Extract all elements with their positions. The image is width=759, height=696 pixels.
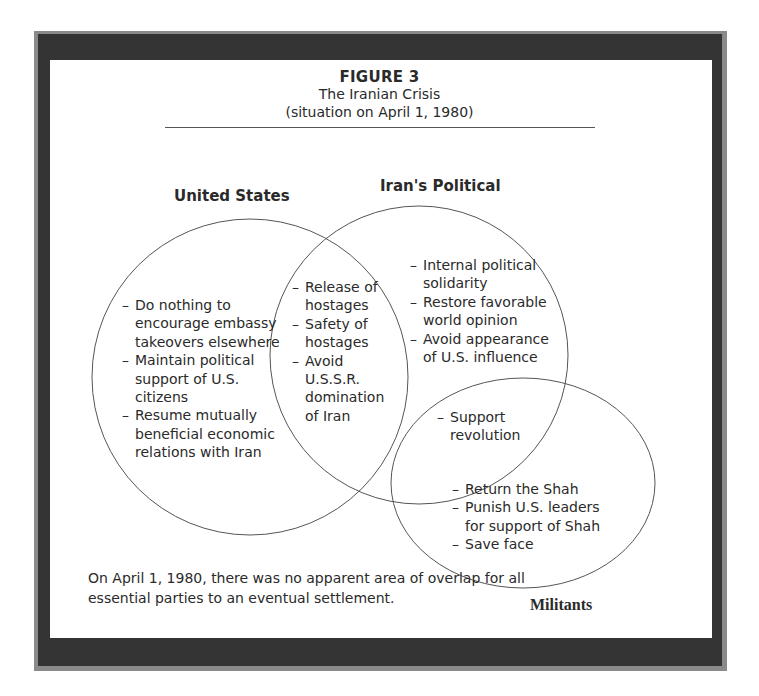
united-states-label: United States <box>174 187 290 205</box>
list-item: Maintain political support of U.S. citiz… <box>122 351 282 406</box>
list-item: Resume mutually beneficial economic rela… <box>122 406 282 461</box>
list-item: Avoid appearance of U.S. influence <box>410 330 550 367</box>
list-item: Avoid U.S.S.R. domination of Iran <box>292 352 382 426</box>
list-item: Save face <box>452 535 622 553</box>
iran-political-label: Iran's Political <box>380 177 501 195</box>
list-item: Support revolution <box>437 408 527 445</box>
list-item: Restore favorable world opinion <box>410 293 550 330</box>
list-item: Do nothing to encourage embassy takeover… <box>122 296 282 351</box>
iran-political-interests: Internal political solidarity Restore fa… <box>410 256 550 366</box>
us-iran-shared-interests: Release of hostages Safety of hostages A… <box>292 278 382 425</box>
figure-note: On April 1, 1980, there was no apparent … <box>88 569 568 608</box>
list-item: Punish U.S. leaders for support of Shah <box>452 498 622 535</box>
list-item: Safety of hostages <box>292 315 382 352</box>
united-states-interests: Do nothing to encourage embassy takeover… <box>122 296 282 462</box>
iran-militants-shared-interests: Support revolution <box>437 408 527 445</box>
list-item: Internal political solidarity <box>410 256 550 293</box>
list-item: Return the Shah <box>452 480 622 498</box>
list-item: Release of hostages <box>292 278 382 315</box>
militants-interests: Return the Shah Punish U.S. leaders for … <box>452 480 622 554</box>
